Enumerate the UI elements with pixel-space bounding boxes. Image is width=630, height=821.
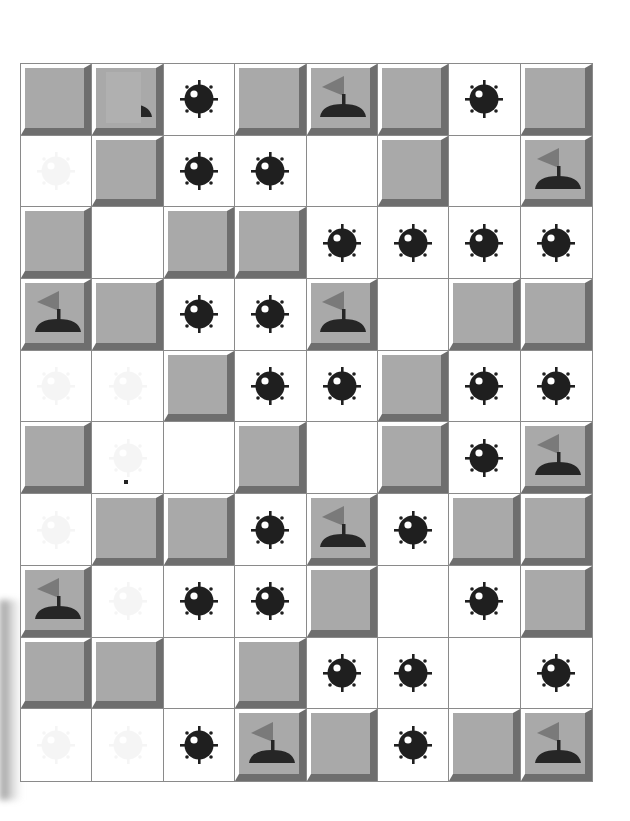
mine-icon xyxy=(235,494,305,565)
covered-tile[interactable] xyxy=(521,494,592,565)
board-cell-r3-c3[interactable] xyxy=(164,207,235,279)
covered-tile[interactable] xyxy=(307,566,377,637)
tile-face xyxy=(525,283,585,343)
board-cell-r7-c8[interactable] xyxy=(521,494,592,566)
board-cell-r9-c1[interactable] xyxy=(21,638,92,710)
board-cell-r1-c5[interactable] xyxy=(307,64,378,136)
covered-tile[interactable] xyxy=(449,279,519,350)
board-cell-r3-c6 xyxy=(378,207,449,279)
covered-tile[interactable] xyxy=(21,64,91,135)
board-cell-r8-c6 xyxy=(378,566,449,638)
covered-tile[interactable] xyxy=(92,494,162,565)
board-cell-r9-c8 xyxy=(521,638,592,710)
board-cell-r6-c8[interactable] xyxy=(521,422,592,494)
covered-tile[interactable] xyxy=(235,207,305,278)
board-cell-r7-c1 xyxy=(21,494,92,566)
board-cell-r9-c4[interactable] xyxy=(235,638,306,710)
board-cell-r4-c7[interactable] xyxy=(449,279,520,351)
covered-tile[interactable] xyxy=(164,351,234,422)
board-cell-r8-c5[interactable] xyxy=(307,566,378,638)
board-cell-r1-c6[interactable] xyxy=(378,64,449,136)
tile-face xyxy=(239,642,298,702)
board-cell-r7-c5[interactable] xyxy=(307,494,378,566)
covered-tile[interactable] xyxy=(21,207,91,278)
covered-tile[interactable] xyxy=(378,64,448,135)
board-cell-r1-c7 xyxy=(449,64,520,136)
board-cell-r3-c4[interactable] xyxy=(235,207,306,279)
mine-icon xyxy=(521,351,592,422)
tile-face xyxy=(96,498,155,558)
covered-tile[interactable] xyxy=(378,351,448,422)
covered-tile[interactable] xyxy=(521,279,592,350)
board-cell-r1-c2[interactable] xyxy=(92,64,163,136)
board-cell-r7-c3[interactable] xyxy=(164,494,235,566)
board-cell-r8-c1[interactable] xyxy=(21,566,92,638)
covered-tile[interactable] xyxy=(235,638,305,709)
tile-face xyxy=(96,642,155,702)
board-cell-r1-c8[interactable] xyxy=(521,64,592,136)
covered-tile[interactable] xyxy=(449,709,519,781)
mine-icon xyxy=(521,207,592,278)
board-cell-r10-c7[interactable] xyxy=(449,709,520,781)
covered-tile[interactable] xyxy=(378,422,448,493)
board-cell-r2-c2[interactable] xyxy=(92,136,163,208)
board-cell-r3-c1[interactable] xyxy=(21,207,92,279)
board-cell-r7-c7[interactable] xyxy=(449,494,520,566)
tile-face xyxy=(382,426,441,486)
covered-tile[interactable] xyxy=(92,136,162,207)
board-cell-r4-c5[interactable] xyxy=(307,279,378,351)
mine-icon xyxy=(235,351,305,422)
board-cell-r4-c1[interactable] xyxy=(21,279,92,351)
flag-icon xyxy=(307,494,377,565)
covered-tile[interactable] xyxy=(378,136,448,207)
board-cell-r6-c3 xyxy=(164,422,235,494)
board-cell-r5-c1 xyxy=(21,351,92,423)
faint-mine-ghost-icon xyxy=(21,494,91,565)
mine-icon xyxy=(449,422,519,493)
tile-face xyxy=(525,68,585,128)
mine-icon xyxy=(449,64,519,135)
board-cell-r2-c6[interactable] xyxy=(378,136,449,208)
board-cell-r7-c2[interactable] xyxy=(92,494,163,566)
mine-icon xyxy=(164,709,234,781)
mine-icon xyxy=(307,351,377,422)
board-cell-r10-c2 xyxy=(92,709,163,781)
covered-tile[interactable] xyxy=(521,566,592,637)
board-cell-r9-c2[interactable] xyxy=(92,638,163,710)
covered-tile[interactable] xyxy=(307,709,377,781)
mine-icon xyxy=(378,207,448,278)
board-cell-r4-c8[interactable] xyxy=(521,279,592,351)
tile-face xyxy=(453,498,512,558)
board-cell-r8-c8[interactable] xyxy=(521,566,592,638)
flag-icon xyxy=(521,136,592,207)
covered-tile[interactable] xyxy=(21,422,91,493)
board-cell-r1-c1[interactable] xyxy=(21,64,92,136)
covered-tile[interactable] xyxy=(92,638,162,709)
mine-icon xyxy=(164,566,234,637)
covered-tile[interactable] xyxy=(235,64,305,135)
board-cell-r8-c3 xyxy=(164,566,235,638)
board-cell-r4-c2[interactable] xyxy=(92,279,163,351)
board-cell-r10-c5[interactable] xyxy=(307,709,378,781)
board-cell-r2-c8[interactable] xyxy=(521,136,592,208)
covered-tile[interactable] xyxy=(164,207,234,278)
board-cell-r6-c4[interactable] xyxy=(235,422,306,494)
board-cell-r2-c3 xyxy=(164,136,235,208)
board-cell-r10-c8[interactable] xyxy=(521,709,592,781)
covered-tile[interactable] xyxy=(92,279,162,350)
tile-face xyxy=(168,498,227,558)
board-cell-r5-c6[interactable] xyxy=(378,351,449,423)
board-cell-r1-c4[interactable] xyxy=(235,64,306,136)
board-cell-r10-c4[interactable] xyxy=(235,709,306,781)
tile-face xyxy=(25,426,84,486)
board-cell-r5-c3[interactable] xyxy=(164,351,235,423)
board-cell-r6-c1[interactable] xyxy=(21,422,92,494)
covered-tile[interactable] xyxy=(21,638,91,709)
faint-mine-ghost-icon xyxy=(92,709,162,781)
covered-tile[interactable] xyxy=(164,494,234,565)
board-cell-r6-c6[interactable] xyxy=(378,422,449,494)
covered-tile[interactable] xyxy=(521,64,592,135)
covered-tile[interactable] xyxy=(235,422,305,493)
tile-face xyxy=(453,713,512,774)
covered-tile[interactable] xyxy=(449,494,519,565)
